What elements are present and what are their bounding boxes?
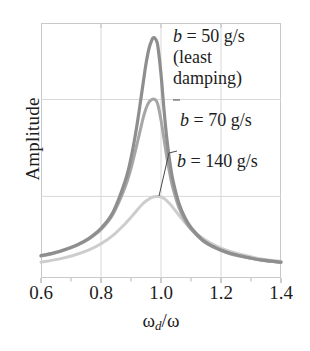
annotation-b-140-var: b — [177, 151, 186, 171]
x-axis-omega-d: ω — [143, 310, 156, 331]
x-tick-label-4: 1.4 — [258, 282, 304, 304]
x-tick-label-0: 0.6 — [18, 282, 64, 304]
annotation-b-50-value: = 50 g/s — [182, 26, 245, 46]
x-tick-label-1: 0.8 — [78, 282, 124, 304]
annotation-b-50-line1: b = 50 g/s — [173, 26, 245, 47]
annotation-b-140-value: = 140 g/s — [186, 151, 258, 171]
x-tick-label-2: 1.0 — [138, 282, 184, 304]
y-axis-label: Amplitude — [22, 59, 44, 219]
annotation-b-50-line2: (least — [173, 47, 245, 68]
annotation-b-70: b = 70 g/s — [180, 110, 252, 131]
annotation-b-50-line3: damping) — [173, 68, 245, 89]
resonance-chart-figure: Amplitude 0.6 0.8 1.0 1.2 1.4 ωd/ω b = 5… — [0, 0, 310, 351]
annotation-b-70-var: b — [180, 110, 189, 130]
x-axis-label: ωd/ω — [41, 310, 281, 334]
x-axis-denominator: /ω — [162, 310, 180, 331]
annotation-b-140: b = 140 g/s — [177, 151, 258, 172]
x-tick-label-3: 1.2 — [198, 282, 244, 304]
annotation-b-50: b = 50 g/s (least damping) — [173, 26, 245, 90]
annotation-b-70-value: = 70 g/s — [189, 110, 252, 130]
annotation-b-50-var: b — [173, 26, 182, 46]
